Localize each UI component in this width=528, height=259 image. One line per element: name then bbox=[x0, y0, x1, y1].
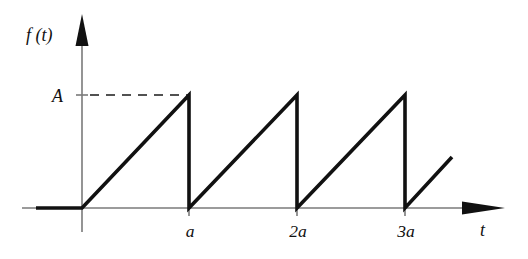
y-axis-label: f (t) bbox=[26, 25, 53, 46]
amplitude-label: A bbox=[51, 86, 64, 106]
x-tick-label-3a: 3a bbox=[396, 221, 415, 241]
x-tick-label-2a: 2a bbox=[289, 221, 307, 241]
x-tick-label-a: a bbox=[186, 221, 195, 241]
sawtooth-waveform-figure: f (t) t A a 2a 3a bbox=[0, 0, 528, 259]
